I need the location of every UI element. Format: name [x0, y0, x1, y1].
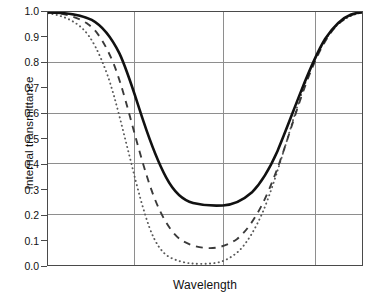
y-tick-label: 0.9 — [24, 31, 39, 43]
chart-root: Internal transmittance 1.0 0.9 0.8 0.7 0… — [0, 0, 375, 308]
y-tick-label: 0.4 — [24, 158, 39, 170]
plot-canvas — [48, 12, 362, 265]
y-tick-label: 0.3 — [24, 184, 39, 196]
x-axis-title: Wavelength — [47, 278, 363, 292]
y-axis-tick-labels: 1.0 0.9 0.8 0.7 0.6 0.5 0.4 0.3 0.2 0.1 … — [0, 0, 45, 308]
y-tick-label: 0.7 — [24, 82, 39, 94]
y-tick-label: 0.8 — [24, 56, 39, 68]
y-tick-label: 1.0 — [24, 5, 39, 17]
y-tick-label: 0.0 — [24, 260, 39, 272]
plot-area — [47, 11, 363, 266]
y-tick-label: 0.6 — [24, 107, 39, 119]
y-tick-label: 0.2 — [24, 209, 39, 221]
y-tick-label: 0.1 — [24, 235, 39, 247]
y-tick-label: 0.5 — [24, 133, 39, 145]
